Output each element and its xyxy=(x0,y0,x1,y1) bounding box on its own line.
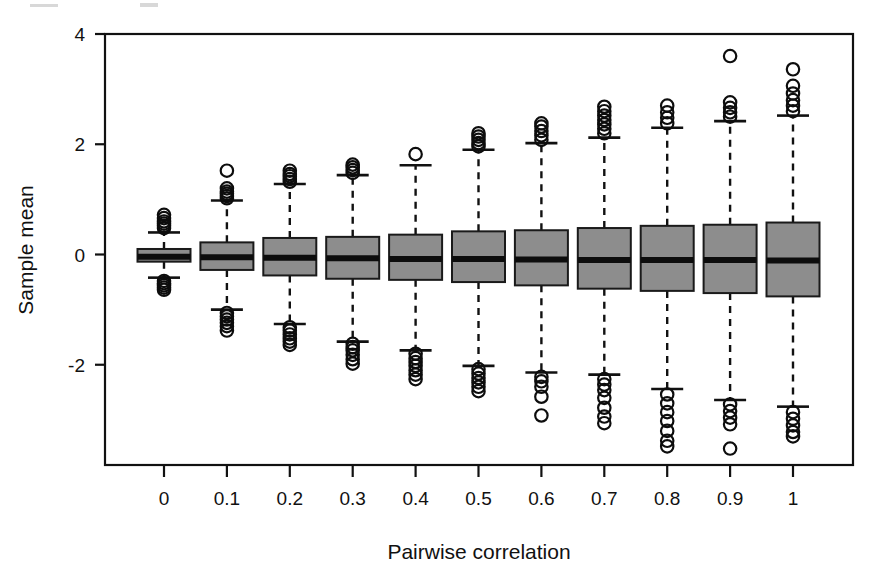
outlier-point xyxy=(221,165,233,177)
x-tick-label: 0.1 xyxy=(214,488,240,509)
x-tick-label: 1 xyxy=(788,488,799,509)
box-series xyxy=(138,50,820,455)
y-tick-label: 0 xyxy=(74,245,85,266)
outlier-point xyxy=(724,442,736,454)
outlier-point xyxy=(787,80,799,92)
x-tick-label: 0.5 xyxy=(465,488,491,509)
outlier-point xyxy=(535,409,547,421)
boxplot-group xyxy=(263,165,316,352)
outlier-point xyxy=(724,50,736,62)
outlier-point xyxy=(787,63,799,75)
boxplot-figure: 420-2 00.10.20.30.40.50.60.70.80.91 Samp… xyxy=(0,0,878,578)
y-tick-label: 4 xyxy=(74,24,85,45)
y-axis: 420-2 xyxy=(68,24,105,376)
y-tick-label: -2 xyxy=(68,355,85,376)
boxplot-group xyxy=(515,117,568,422)
x-tick-label: 0.6 xyxy=(528,488,554,509)
boxplot-group xyxy=(578,101,631,430)
boxplot-group xyxy=(389,148,442,385)
x-tick-label: 0.4 xyxy=(402,488,429,509)
scan-artifacts xyxy=(30,3,158,7)
x-tick-label: 0 xyxy=(159,488,170,509)
boxplot-group xyxy=(452,127,505,397)
x-tick-label: 0.8 xyxy=(654,488,680,509)
boxplot-chart: 420-2 00.10.20.30.40.50.60.70.80.91 Samp… xyxy=(0,0,878,578)
x-axis-title: Pairwise correlation xyxy=(387,540,570,563)
boxplot-group xyxy=(200,165,253,337)
y-tick-label: 2 xyxy=(74,134,85,155)
y-axis-title: Sample mean xyxy=(14,185,37,315)
x-tick-label: 0.7 xyxy=(591,488,617,509)
boxplot-group xyxy=(641,99,694,452)
boxplot-group xyxy=(326,158,379,369)
boxplot-group xyxy=(704,50,757,455)
x-tick-label: 0.9 xyxy=(717,488,743,509)
outlier-point xyxy=(409,148,421,160)
x-axis: 00.10.20.30.40.50.60.70.80.91 xyxy=(159,465,799,509)
x-tick-label: 0.3 xyxy=(339,488,365,509)
boxplot-group xyxy=(138,209,191,296)
x-tick-label: 0.2 xyxy=(277,488,303,509)
boxplot-group xyxy=(767,63,820,443)
